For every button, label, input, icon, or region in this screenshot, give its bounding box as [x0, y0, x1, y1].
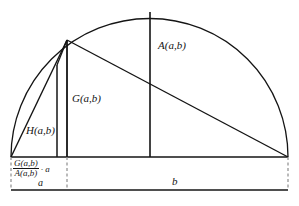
label-segment-a: a	[38, 178, 43, 188]
label-geometric-mean: G(a,b)	[72, 93, 101, 104]
ratio-numerator: G(a,b)	[13, 159, 39, 168]
ratio-multiplier: · a	[41, 164, 50, 174]
label-ratio-expression: G(a,b) A(a,b) · a	[13, 159, 50, 179]
geometry-diagram: A(a,b) G(a,b) H(a,b) a b G(a,b) A(a,b) ·…	[0, 0, 299, 206]
label-segment-b: b	[172, 176, 178, 187]
chord-left	[11, 40, 67, 157]
label-harmonic-mean: H(a,b)	[26, 125, 55, 136]
label-arithmetic-mean: A(a,b)	[158, 40, 186, 51]
ratio-denominator: A(a,b)	[14, 169, 39, 178]
ratio-fraction: G(a,b) A(a,b)	[13, 159, 39, 179]
